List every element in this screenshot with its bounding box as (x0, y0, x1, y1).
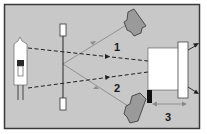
target-strip (178, 42, 188, 98)
label-beam-2: 2 (114, 82, 120, 94)
black-marker (147, 90, 152, 103)
optical-diagram: 1 2 3 (0, 0, 207, 134)
label-beam-1: 1 (114, 41, 120, 53)
rod-top-marker (60, 24, 66, 36)
target-box (148, 48, 181, 90)
rod-bottom-marker (60, 98, 66, 110)
label-distance-3: 3 (165, 111, 171, 123)
